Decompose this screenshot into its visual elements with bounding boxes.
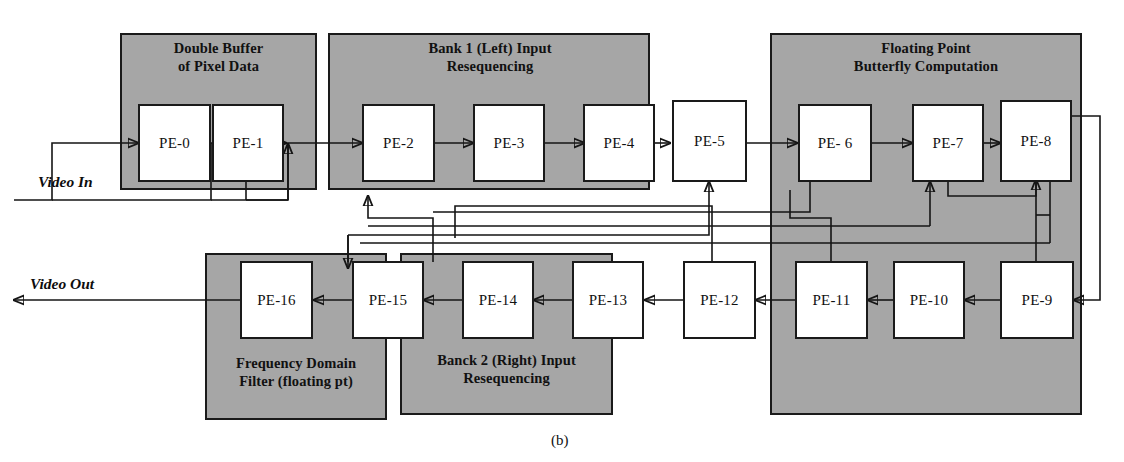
pe-box-pe-9[interactable]: PE-9 xyxy=(1000,261,1074,339)
pe-box-pe-7[interactable]: PE-7 xyxy=(912,104,984,182)
video-in-label: Video In xyxy=(38,173,93,191)
figure-caption: (b) xyxy=(551,432,569,449)
pe-box-pe-2[interactable]: PE-2 xyxy=(362,104,435,182)
block-diagram-figure: Double Buffer of Pixel Data Bank 1 (Left… xyxy=(0,0,1124,462)
pe-box-pe-1[interactable]: PE-1 xyxy=(212,104,284,182)
pe-box-pe-16[interactable]: PE-16 xyxy=(240,261,313,339)
pe-box-pe-13[interactable]: PE-13 xyxy=(572,261,644,339)
pe-box-pe-4[interactable]: PE-4 xyxy=(583,104,655,182)
video-out-label: Video Out xyxy=(30,275,94,293)
pe-box-pe-3[interactable]: PE-3 xyxy=(473,104,545,182)
pe-box-pe-12[interactable]: PE-12 xyxy=(683,261,756,339)
pe-box-pe-0[interactable]: PE-0 xyxy=(138,104,211,182)
pe-box-pe-5[interactable]: PE-5 xyxy=(672,100,747,182)
pe-box-pe-11[interactable]: PE-11 xyxy=(795,261,868,339)
pe-box-pe-14[interactable]: PE-14 xyxy=(462,261,534,339)
pe-box-pe-8[interactable]: PE-8 xyxy=(1000,100,1072,182)
pe-box-pe-6[interactable]: PE- 6 xyxy=(798,104,872,182)
group-butterfly-computation xyxy=(770,33,1082,415)
pe-box-pe-15[interactable]: PE-15 xyxy=(352,261,424,339)
pe-box-pe-10[interactable]: PE-10 xyxy=(893,261,965,339)
